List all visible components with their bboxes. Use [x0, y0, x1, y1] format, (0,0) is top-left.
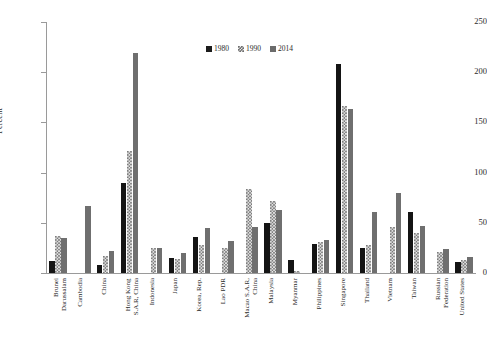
category-label: Macao S.A.R, China	[244, 278, 260, 318]
bar-group	[94, 22, 118, 273]
category-label: Taiwan	[411, 278, 419, 299]
bar-group	[309, 22, 333, 273]
bar-2014	[181, 253, 186, 273]
bar-group	[285, 22, 309, 273]
bar-2014	[324, 240, 329, 273]
bar-1990	[55, 236, 60, 273]
category-label: Cambodia	[77, 278, 85, 307]
category-label: Lao PDR	[220, 278, 228, 304]
x-axis-line	[46, 273, 476, 274]
category-label: Myanmar	[292, 278, 300, 305]
bar-1990	[294, 271, 299, 273]
category-label: China	[101, 278, 109, 295]
bar-1990	[175, 259, 180, 273]
bar-group	[428, 22, 452, 273]
bar-2014	[133, 53, 138, 273]
bar-2014	[157, 248, 162, 273]
bar-group	[213, 22, 237, 273]
bar-2014	[420, 226, 425, 273]
bar-group	[404, 22, 428, 273]
category-label: United States	[459, 278, 467, 316]
y-axis-title: Percent	[0, 108, 4, 134]
bar-1990	[270, 201, 275, 273]
bar-2014	[228, 241, 233, 273]
bar-1980	[336, 64, 341, 273]
category-label: Indonesia	[149, 278, 157, 305]
bar-2014	[61, 238, 66, 273]
bar-1990	[414, 233, 419, 273]
bar-1990	[461, 260, 466, 273]
bar-2014	[467, 257, 472, 273]
bar-2014	[372, 212, 377, 273]
category-label: Malaysia	[268, 278, 276, 304]
bar-group	[452, 22, 476, 273]
bar-group	[261, 22, 285, 273]
bar-2014	[205, 228, 210, 273]
bar-1990	[437, 252, 442, 273]
category-label: Korea, Rep.	[196, 278, 204, 312]
category-label: Vietnam	[387, 278, 395, 302]
plot-area	[46, 22, 476, 273]
bar-group	[165, 22, 189, 273]
bar-group	[142, 22, 166, 273]
bar-1980	[193, 237, 198, 273]
bar-group	[237, 22, 261, 273]
bar-group	[70, 22, 94, 273]
category-label: Hong Kong S.A.R, China	[125, 278, 141, 315]
bar-group	[118, 22, 142, 273]
bar-1980	[408, 212, 413, 273]
bar-1980	[264, 223, 269, 273]
category-label: Brunei Darussalam	[53, 278, 69, 311]
bar-1980	[312, 244, 317, 273]
bar-1990	[103, 256, 108, 273]
bar-group	[380, 22, 404, 273]
bar-2014	[276, 210, 281, 273]
bar-1980	[169, 258, 174, 273]
bar-group	[333, 22, 357, 273]
bar-1990	[366, 245, 371, 273]
bar-1980	[455, 262, 460, 273]
bar-2014	[348, 109, 353, 273]
bar-2014	[109, 251, 114, 273]
bar-group	[46, 22, 70, 273]
bar-2014	[252, 227, 257, 273]
bar-1980	[49, 261, 54, 273]
bar-1980	[360, 248, 365, 273]
y-tick-mark	[41, 273, 46, 274]
bar-1990	[390, 227, 395, 273]
bar-1990	[222, 248, 227, 273]
bar-2014	[396, 193, 401, 273]
bar-1990	[199, 245, 204, 273]
bar-2014	[85, 206, 90, 273]
bar-1990	[127, 151, 132, 273]
bar-1980	[288, 260, 293, 273]
bar-group	[189, 22, 213, 273]
bar-chart: Percent 050100150200250 198019902014 Bru…	[0, 0, 487, 338]
bar-1990	[342, 106, 347, 273]
bar-1990	[246, 189, 251, 273]
category-label: Philippines	[316, 278, 324, 310]
bar-1980	[121, 183, 126, 273]
bar-1980	[97, 265, 102, 273]
category-label: Russian Federation	[435, 278, 451, 308]
bar-group	[357, 22, 381, 273]
category-label: Singapore	[340, 278, 348, 306]
bar-2014	[443, 249, 448, 273]
category-label: Japan	[172, 278, 180, 294]
bar-1990	[318, 242, 323, 273]
category-label: Thailand	[364, 278, 372, 303]
bar-1990	[151, 248, 156, 273]
